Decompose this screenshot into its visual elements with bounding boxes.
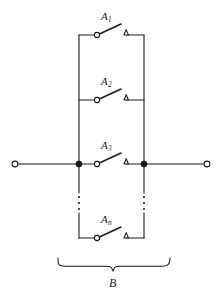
switch-label-an-subscript: n xyxy=(108,219,112,227)
right-junction-dot xyxy=(141,161,148,168)
switch-blade-a1[interactable] xyxy=(99,24,121,34)
switch-pivot-a3[interactable] xyxy=(94,161,99,166)
switch-label-an-base: A xyxy=(101,213,108,225)
switch-label-an: An xyxy=(101,214,112,227)
right-terminal-node[interactable] xyxy=(204,161,210,167)
switch-label-a1-subscript: 1 xyxy=(108,16,112,24)
right-rail-ellipsis-icon xyxy=(143,196,145,210)
brace-bracket xyxy=(58,258,170,271)
switch-label-a2-base: A xyxy=(101,75,108,87)
left-terminal-node[interactable] xyxy=(12,161,18,167)
switch-contact-an[interactable] xyxy=(124,233,128,238)
switch-blade-an[interactable] xyxy=(99,227,121,237)
switch-contact-a1[interactable] xyxy=(124,30,128,35)
switch-label-a2-subscript: 2 xyxy=(108,81,112,89)
switch-pivot-a2[interactable] xyxy=(94,97,99,102)
switch-label-a3-subscript: 3 xyxy=(108,145,112,153)
left-rail-ellipsis-icon xyxy=(78,196,80,210)
switch-contact-a3[interactable] xyxy=(124,159,128,164)
switch-label-a1-base: A xyxy=(101,10,108,22)
left-junction-dot xyxy=(76,161,83,168)
circuit-diagram-figure: A1 A2 A3 An B xyxy=(0,0,221,303)
switch-contact-a2[interactable] xyxy=(124,95,128,100)
switch-blade-a2[interactable] xyxy=(99,89,121,99)
switch-label-a3-base: A xyxy=(101,139,108,151)
switch-pivot-an[interactable] xyxy=(94,235,99,240)
switch-label-a3: A3 xyxy=(101,140,112,153)
switch-label-a2: A2 xyxy=(101,76,112,89)
switch-label-a1: A1 xyxy=(101,11,112,24)
switch-blade-a3[interactable] xyxy=(99,153,121,163)
switch-pivot-a1[interactable] xyxy=(94,32,99,37)
brace-label-b: B xyxy=(109,277,116,289)
